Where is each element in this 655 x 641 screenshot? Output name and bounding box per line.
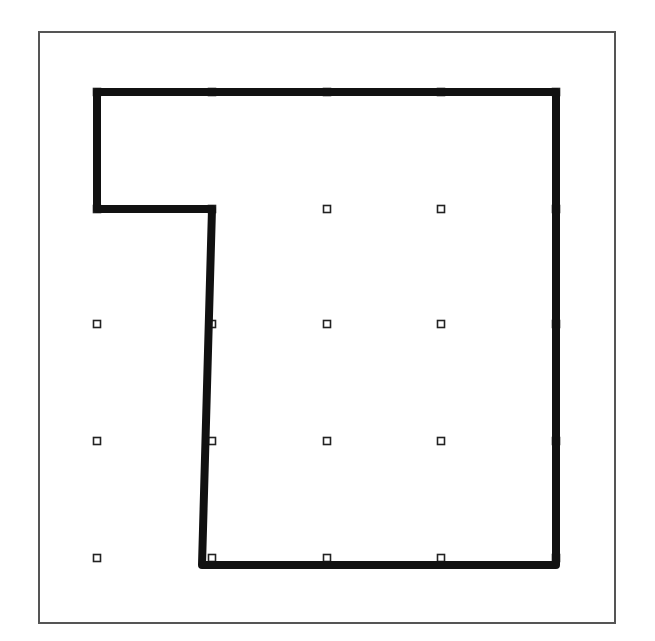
grid-dot-r4-c1 (209, 555, 216, 562)
grid-dot-r4-c3 (438, 555, 445, 562)
grid-dot-r2-c3 (438, 321, 445, 328)
grid-dot-r4-c2 (324, 555, 331, 562)
grid-dots (94, 89, 560, 562)
grid-dot-r2-c0 (94, 321, 101, 328)
grid-dot-r3-c3 (438, 438, 445, 445)
dot-grid-diagram (0, 0, 655, 641)
polygon-outline (97, 92, 556, 565)
grid-dot-r3-c2 (324, 438, 331, 445)
grid-dot-r1-c3 (438, 206, 445, 213)
grid-dot-r1-c2 (324, 206, 331, 213)
grid-dot-r2-c2 (324, 321, 331, 328)
grid-dot-r4-c0 (94, 555, 101, 562)
grid-dot-r3-c0 (94, 438, 101, 445)
